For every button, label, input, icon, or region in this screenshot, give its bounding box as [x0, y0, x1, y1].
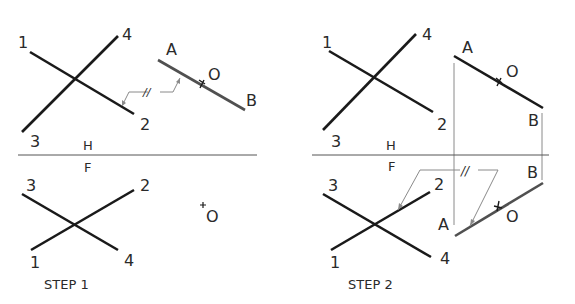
step-1-panel: // 1 4 2 3 A O B H F O 3 2 1 4 STEP 1 — [18, 25, 257, 292]
label-b-front: B — [527, 163, 538, 182]
label-a-front: A — [438, 215, 449, 234]
line-3-4-top — [323, 34, 416, 130]
label-h: H — [386, 138, 396, 153]
label-a-top: A — [462, 38, 473, 57]
line-3-4-front — [323, 194, 431, 257]
line-1-2-front — [331, 192, 430, 250]
label-h: H — [83, 138, 93, 153]
step-2-caption: STEP 2 — [348, 277, 393, 292]
label-1-top: 1 — [18, 33, 28, 52]
parallel-mark: // — [460, 164, 471, 178]
label-4-top: 4 — [422, 25, 432, 44]
line-3-4-front — [22, 194, 118, 250]
label-1-top: 1 — [322, 33, 332, 52]
label-1-front: 1 — [30, 253, 40, 272]
line-1-2-top — [329, 51, 433, 112]
label-2-top: 2 — [140, 115, 150, 134]
label-3-front: 3 — [328, 176, 338, 195]
step-2-panel: 1 4 2 3 A O B H F // 3 2 1 4 A B O STEP … — [312, 25, 549, 292]
arrowhead-icon — [398, 203, 475, 226]
label-b-top: B — [246, 91, 257, 110]
label-f: F — [84, 160, 91, 175]
label-2-front: 2 — [434, 175, 444, 194]
label-1-front: 1 — [330, 253, 340, 272]
parallel-mark: // — [142, 86, 152, 99]
label-4-front: 4 — [440, 249, 450, 268]
label-4-front: 4 — [124, 251, 134, 270]
label-2-front: 2 — [140, 176, 150, 195]
label-o-top: O — [506, 62, 519, 81]
line-3-4-top — [22, 36, 118, 132]
label-o-front: O — [206, 207, 219, 226]
label-o-front: O — [506, 207, 519, 226]
label-2-top: 2 — [437, 115, 447, 134]
label-a-top: A — [166, 40, 177, 59]
line-a-b-front — [455, 183, 543, 236]
label-3-top: 3 — [331, 132, 341, 151]
label-3-top: 3 — [30, 132, 40, 151]
label-f: F — [388, 159, 395, 174]
label-4-top: 4 — [122, 25, 132, 44]
label-3-front: 3 — [26, 176, 36, 195]
parallel-construction-line — [122, 78, 180, 106]
label-o-top: O — [208, 65, 221, 84]
label-b-top: B — [528, 111, 539, 130]
line-1-2-top — [30, 52, 134, 114]
step-1-caption: STEP 1 — [44, 277, 89, 292]
line-1-2-front — [31, 190, 134, 250]
descriptive-geometry-figure: // 1 4 2 3 A O B H F O 3 2 1 4 STEP 1 1 … — [0, 0, 575, 304]
